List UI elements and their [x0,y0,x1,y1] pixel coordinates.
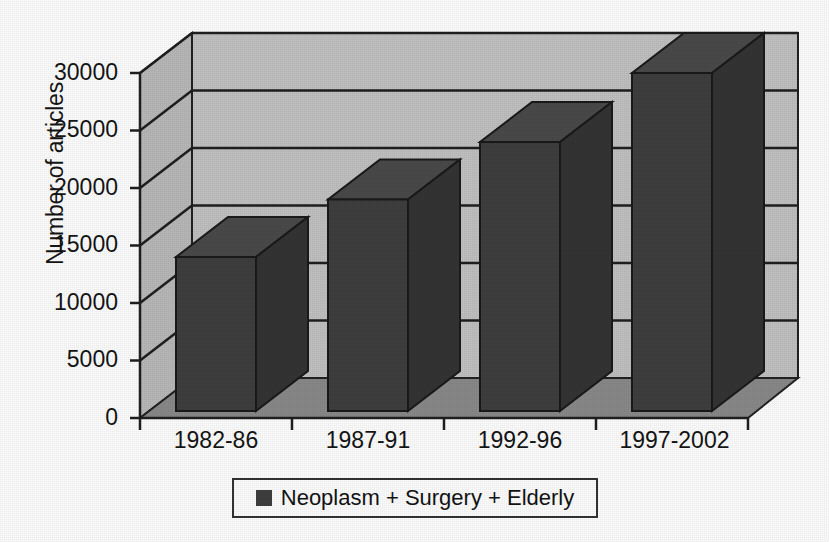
legend-swatch-icon [256,490,272,506]
bar-1982-86 [176,217,308,411]
bar-1992-96 [480,102,612,411]
y-tick-15000: 15000 [40,233,118,256]
x-axis-tick-labels: 1982-86 1987-91 1992-96 1997-2002 [0,426,829,460]
y-axis-tick-labels: 30000 25000 20000 15000 10000 5000 0 [40,0,118,542]
chart-plot-area [0,0,829,542]
y-tick-10000: 10000 [40,291,118,314]
x-tick-1987-91: 1987-91 [308,426,428,454]
x-tick-1982-86: 1982-86 [156,426,276,454]
bar-chart-figure: Number of articles 30000 25000 20000 150… [0,0,829,542]
y-tick-20000: 20000 [40,176,118,199]
x-tick-1997-2002: 1997-2002 [607,426,742,454]
chart-legend: Neoplasm + Surgery + Elderly [232,478,598,518]
y-axis [130,73,140,418]
y-tick-25000: 25000 [40,118,118,141]
x-tick-1992-96: 1992-96 [460,426,580,454]
bar-1987-91 [328,160,460,412]
bar-1997-2002 [632,33,764,411]
y-tick-5000: 5000 [40,348,118,371]
y-tick-30000: 30000 [40,61,118,84]
legend-entry-label: Neoplasm + Surgery + Elderly [281,485,574,511]
